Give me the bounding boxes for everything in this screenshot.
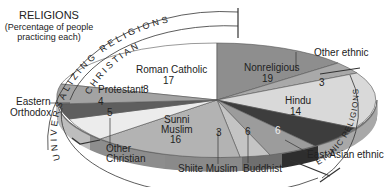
label-other-christian-2: Christian — [106, 154, 145, 164]
chart-subtitle-1: (Percentage of people — [2, 22, 96, 32]
value-buddhist: 6 — [245, 127, 251, 137]
value-eastern-orthodox: 4 — [98, 97, 104, 107]
value-protestant: 8 — [143, 85, 149, 95]
chart-subtitle-2: practicing each) — [2, 32, 96, 42]
value-nonreligious: 19 — [262, 74, 273, 84]
label-other-ethnic: Other ethnic — [314, 48, 368, 58]
value-east-asian-ethnic: 6 — [275, 126, 281, 136]
label-protestant: Protestant — [98, 85, 144, 95]
label-roman-catholic: Roman Catholic — [136, 65, 207, 75]
pie-top — [57, 43, 376, 158]
label-eastern-orthodox-2: Orthodox — [10, 108, 51, 118]
chart-title: RELIGIONS — [14, 9, 84, 21]
label-eastern-orthodox-1: Eastern — [16, 97, 50, 107]
value-roman-catholic: 17 — [163, 76, 174, 86]
label-nonreligious: Nonreligious — [244, 63, 300, 73]
value-sunni-muslim: 16 — [170, 135, 181, 145]
label-shiite-muslim: Shiite Muslim — [178, 164, 237, 174]
value-other-ethnic: 3 — [319, 78, 325, 88]
label-east-asian-ethnic: East Asian ethnic — [307, 150, 384, 160]
label-hindu: Hindu — [285, 96, 311, 106]
label-buddhist: Buddhist — [243, 164, 282, 174]
value-other-christian: 5 — [107, 108, 113, 118]
value-hindu: 14 — [290, 107, 301, 117]
value-shiite-muslim: 3 — [216, 128, 222, 138]
